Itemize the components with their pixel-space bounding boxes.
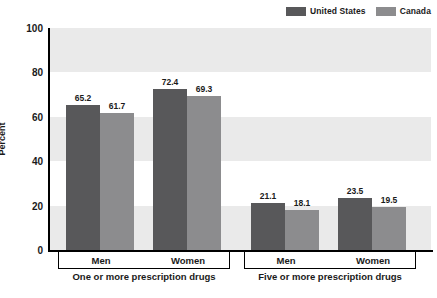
bar-chart: United States Canada Percent 10080604020… [0,0,437,298]
group-label: Five or more prescription drugs [258,271,402,282]
bar-value-label: 61.7 [109,101,126,111]
legend-entry-united-states[interactable]: United States [286,6,366,16]
bar[interactable]: 18.1 [285,210,319,250]
bar[interactable]: 72.4 [153,89,187,250]
bar[interactable]: 19.5 [372,207,406,250]
bar-value-label: 19.5 [381,195,398,205]
bars-layer: 65.261.772.469.321.118.123.519.5 [48,28,431,250]
bar-value-label: 21.1 [260,191,277,201]
y-axis-tick-label: 60 [32,111,43,122]
category-bracket-inner: MenWomen [59,252,229,268]
category-label: Women [171,255,205,266]
category-label: Men [92,255,111,266]
category-bracket: MenWomen [244,252,416,269]
category-label: Men [277,255,296,266]
bar-value-label: 69.3 [196,84,213,94]
y-axis-tick-label: 100 [26,23,43,34]
legend-label-united-states: United States [310,6,366,16]
y-axis-tick-label: 80 [32,67,43,78]
category-label: Women [356,255,390,266]
legend-swatch-canada [376,7,396,16]
legend-label-canada: Canada [400,6,431,16]
bar-value-label: 23.5 [347,186,364,196]
bar-value-label: 65.2 [75,93,92,103]
y-axis-tick-label: 40 [32,156,43,167]
legend-entry-canada[interactable]: Canada [376,6,431,16]
bar[interactable]: 61.7 [100,113,134,250]
y-axis-tick-label: 20 [32,200,43,211]
group-label: One or more prescription drugs [72,271,215,282]
chart-legend: United States Canada [286,6,431,16]
y-axis-tick-label: 0 [37,245,43,256]
bar[interactable]: 65.2 [66,105,100,250]
bar-value-label: 72.4 [162,77,179,87]
category-bracket: MenWomen [58,252,230,269]
plot-area: 100806040200 65.261.772.469.321.118.123.… [48,28,431,250]
bar[interactable]: 21.1 [251,203,285,250]
bar[interactable]: 69.3 [187,96,221,250]
bar-value-label: 18.1 [294,198,311,208]
legend-swatch-united-states [286,7,306,16]
y-axis-line [48,28,50,250]
category-bracket-inner: MenWomen [245,252,415,268]
y-axis-label: Percent [0,122,7,155]
bar[interactable]: 23.5 [338,198,372,250]
